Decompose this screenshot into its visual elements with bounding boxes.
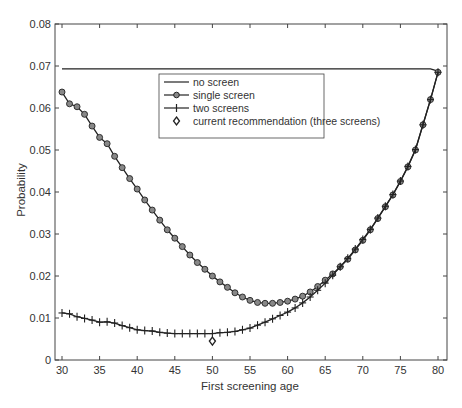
circle-marker-icon: [300, 293, 306, 299]
circle-marker-icon: [179, 244, 185, 250]
x-axis-label: First screening age: [201, 380, 299, 392]
legend-label: two screens: [193, 102, 249, 114]
circle-marker-icon: [277, 299, 283, 305]
circle-marker-icon: [232, 290, 238, 296]
probability-chart: 303540455055606570758000.010.020.030.040…: [0, 0, 462, 408]
circle-marker-icon: [82, 111, 88, 117]
circle-marker-icon: [255, 299, 261, 305]
legend-label: no screen: [193, 76, 239, 88]
x-tick-label: 55: [244, 364, 256, 376]
y-tick-label: 0.07: [30, 60, 51, 72]
y-tick-label: 0.06: [30, 102, 51, 114]
circle-marker-icon: [134, 186, 140, 192]
x-tick-label: 45: [169, 364, 181, 376]
y-tick-label: 0.03: [30, 228, 51, 240]
y-tick-label: 0.04: [30, 186, 51, 198]
circle-marker-icon: [292, 296, 298, 302]
circle-marker-icon: [127, 176, 133, 182]
x-tick-label: 40: [131, 364, 143, 376]
circle-marker-icon: [202, 266, 208, 272]
circle-marker-icon: [194, 260, 200, 266]
x-tick-label: 50: [206, 364, 218, 376]
circle-marker-icon: [224, 284, 230, 290]
x-tick-label: 80: [432, 364, 444, 376]
y-axis-label: Probability: [15, 163, 27, 217]
circle-marker-icon: [247, 297, 253, 303]
circle-marker-icon: [97, 134, 103, 140]
y-tick-label: 0.08: [30, 18, 51, 30]
circle-marker-icon: [142, 197, 148, 203]
legend-item-three-screens: current recommendation (three screens): [174, 115, 381, 127]
circle-marker-icon: [89, 123, 95, 129]
circle-marker-icon: [104, 141, 110, 147]
circle-marker-icon: [174, 92, 180, 98]
x-tick-label: 70: [357, 364, 369, 376]
circle-marker-icon: [119, 165, 125, 171]
circle-marker-icon: [59, 89, 65, 95]
x-tick-label: 60: [281, 364, 293, 376]
x-tick-label: 35: [93, 364, 105, 376]
circle-marker-icon: [285, 298, 291, 304]
legend: no screen single screen two screens curr…: [159, 74, 380, 138]
circle-marker-icon: [217, 279, 223, 285]
circle-marker-icon: [270, 300, 276, 306]
x-tick-label: 65: [319, 364, 331, 376]
circle-marker-icon: [209, 273, 215, 279]
series-no-screen: [62, 69, 438, 71]
y-tick-label: 0.02: [30, 270, 51, 282]
circle-marker-icon: [67, 101, 73, 107]
circle-marker-icon: [239, 294, 245, 300]
circle-marker-icon: [74, 104, 80, 110]
circle-marker-icon: [112, 153, 118, 159]
x-tick-label: 30: [56, 364, 68, 376]
legend-label: current recommendation (three screens): [193, 115, 380, 127]
x-tick-label: 75: [394, 364, 406, 376]
circle-marker-icon: [187, 252, 193, 258]
circle-marker-icon: [149, 207, 155, 213]
y-tick-label: 0: [45, 354, 51, 366]
y-tick-label: 0.01: [30, 312, 51, 324]
circle-marker-icon: [262, 300, 268, 306]
circle-marker-icon: [172, 235, 178, 241]
circle-marker-icon: [164, 227, 170, 233]
diamond-marker-icon: [209, 337, 215, 345]
circle-marker-icon: [157, 217, 163, 223]
y-tick-label: 0.05: [30, 144, 51, 156]
legend-label: single screen: [193, 89, 255, 101]
